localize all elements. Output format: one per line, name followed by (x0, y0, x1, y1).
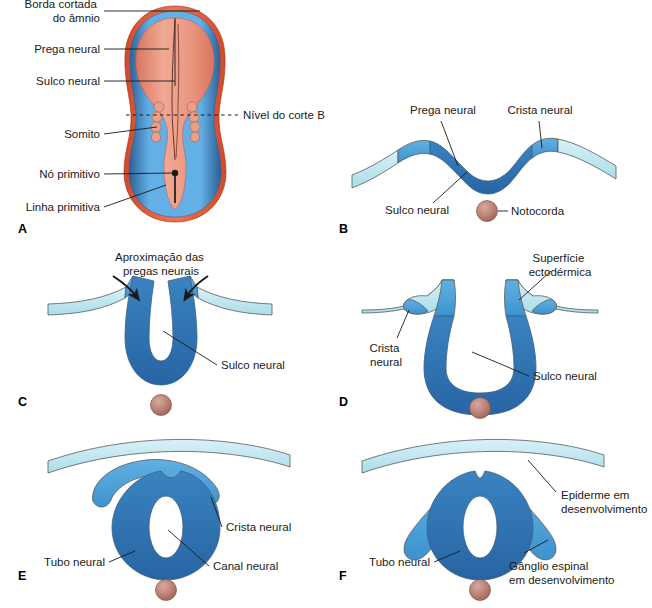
panel-letter-a: A (18, 222, 27, 236)
label-sulco-neural-b: Sulco neural (385, 204, 449, 216)
ectoderm-light-right (558, 139, 616, 179)
label-somito: Somito (64, 128, 100, 140)
label-ganglio-espinal-em-desenvolvimento: Gânglio espinal em desenvolvimento (509, 560, 614, 586)
notochord-f (470, 580, 491, 601)
neural-fold-medium-left (398, 140, 430, 163)
notochord-d (470, 398, 491, 419)
ectoderm-wing-left-c (48, 287, 126, 315)
panel-e: Crista neural Tubo neural Canal neural E (18, 439, 291, 600)
panel-b-labels: Prega neural Crista neural Sulco neural … (385, 104, 573, 217)
notochord-b (477, 201, 498, 222)
panel-letter-e: E (18, 569, 26, 583)
panel-letter-f: F (339, 569, 347, 583)
label-canal-neural-e: Canal neural (213, 560, 278, 572)
leader-epiderme-f (528, 460, 556, 492)
notochord-e (156, 580, 177, 601)
notochord-c (151, 395, 172, 416)
label-prega-neural: Prega neural (34, 43, 100, 55)
label-linha-primitiva: Linha primitiva (26, 201, 101, 213)
neurulation-figure: Borda cortada do âmnio Prega neural Sulc… (0, 0, 652, 608)
neural-groove-u-c (125, 276, 197, 385)
label-sulco-neural-d: Sulco neural (533, 370, 597, 382)
label-crista-neural-d: Crista neural (369, 342, 402, 368)
label-nivel-do-corte-b: Nível do corte B (243, 109, 325, 121)
panel-a: Borda cortada do âmnio Prega neural Sulc… (18, 0, 325, 236)
panel-b: Prega neural Crista neural Sulco neural … (339, 104, 616, 236)
label-aproximacao-das-pregas-neurais: Aproximação das pregas neurais (115, 251, 207, 277)
panel-d-labels: Superfície ectodérmica Crista neural Sul… (369, 252, 597, 382)
panel-f: Epiderme em desenvolvimento Tubo neural … (339, 439, 647, 600)
label-crista-neural-b: Crista neural (507, 104, 572, 116)
leader-crista-neural-d (397, 310, 409, 338)
neural-canal-e (149, 496, 183, 558)
label-prega-neural-b: Prega neural (410, 104, 476, 116)
panel-a-embryo-illustration (124, 6, 226, 222)
neurulation-diagram-svg: Borda cortada do âmnio Prega neural Sulc… (0, 0, 652, 608)
neural-crest-medium-right (532, 138, 558, 158)
neural-canal-f (463, 496, 497, 558)
label-no-primitivo: Nó primitivo (39, 168, 100, 180)
label-epiderme-em-desenvolvimento: Epiderme em desenvolvimento (561, 489, 647, 515)
label-notocorda-b: Notocorda (511, 205, 565, 217)
label-borda-cortada-do-amnio: Borda cortada do âmnio (25, 0, 100, 24)
panel-letter-b: B (339, 222, 348, 236)
panel-d: Superfície ectodérmica Crista neural Sul… (339, 252, 598, 419)
leader-sulco-neural-b (433, 172, 467, 203)
epidermis-band-f (362, 439, 604, 473)
panel-letter-c: C (18, 395, 27, 409)
label-superficie-ectodermica: Superfície ectodérmica (529, 252, 592, 278)
panel-c: Aproximação das pregas neurais Sulco neu… (18, 251, 285, 416)
panel-letter-d: D (339, 395, 348, 409)
label-crista-neural-e: Crista neural (226, 521, 291, 533)
neural-groove-dark-left (430, 141, 488, 194)
label-tubo-neural-f: Tubo neural (369, 556, 430, 568)
label-tubo-neural-e: Tubo neural (44, 556, 105, 568)
ectoderm-light-left (352, 150, 398, 188)
label-sulco-neural: Sulco neural (36, 75, 100, 87)
ectoderm-wing-right-c (197, 287, 272, 315)
neural-groove-dark-right (488, 145, 532, 194)
label-sulco-neural-c: Sulco neural (221, 359, 285, 371)
